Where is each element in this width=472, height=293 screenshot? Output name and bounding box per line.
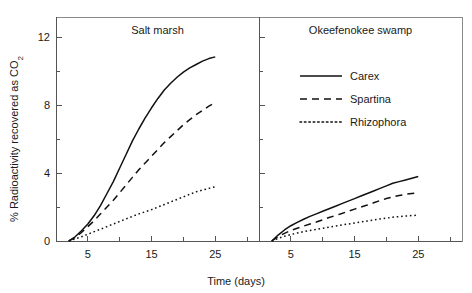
x-tick-label: 15 <box>348 248 360 260</box>
x-tick-label: 5 <box>85 248 91 260</box>
x-tick-label: 15 <box>145 248 157 260</box>
y-tick-label: 8 <box>44 99 50 111</box>
x-tick-label: 25 <box>209 248 221 260</box>
legend-label-rhizophora: Rhizophora <box>350 116 407 128</box>
y-tick-label: 4 <box>44 167 50 179</box>
legend-label-carex: Carex <box>350 70 380 82</box>
series-line-rhizophora <box>272 215 419 241</box>
x-tick-label: 25 <box>412 248 424 260</box>
series-line-carex <box>272 177 419 241</box>
figure-container: 04812% Radioactivity recovered as CO2515… <box>0 0 472 293</box>
panel-title: Salt marsh <box>131 24 184 36</box>
series-line-carex <box>69 57 216 241</box>
y-tick-label: 12 <box>38 31 50 43</box>
panel-title: Okeefenokee swamp <box>309 24 412 36</box>
legend-label-spartina: Spartina <box>350 93 392 105</box>
x-axis-title: Time (days) <box>207 275 265 287</box>
y-axis-title-text: % Radioactivity recovered as CO2 <box>8 56 25 222</box>
series-line-rhizophora <box>69 187 216 241</box>
x-tick-label: 5 <box>288 248 294 260</box>
y-axis-title: % Radioactivity recovered as CO2 <box>8 56 25 222</box>
chart-svg: 04812% Radioactivity recovered as CO2515… <box>0 0 472 293</box>
y-tick-label: 0 <box>44 235 50 247</box>
